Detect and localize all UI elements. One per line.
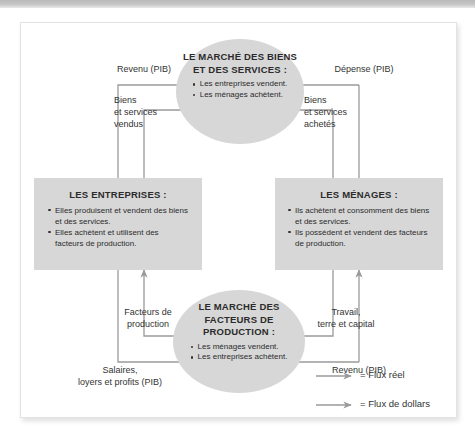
node-market-goods-title: LE MARCHÉ DES BIENS ET DES SERVICES : [176, 51, 304, 76]
bullet: Elles achètent et utilisent des facteurs… [48, 227, 188, 249]
legend-equals-1: = [360, 369, 366, 380]
bullet: Elles produisent et vendent des biens et… [48, 205, 188, 227]
page-top-band [0, 0, 475, 8]
label-biens-services-vendus: Biens et services vendus [114, 94, 184, 130]
legend-equals-2: = [360, 398, 366, 409]
node-firms[interactable]: LES ENTREPRISES : Elles produisent et ve… [34, 178, 202, 270]
node-firms-title: LES ENTREPRISES : [34, 189, 202, 202]
node-market-factors-bullets: Les ménages vendent. Les entreprises ach… [191, 342, 288, 363]
node-market-goods-bullets: Les entreprises vendent. Les ménages ach… [193, 79, 288, 100]
legend-label-flux-dollars: Flux de dollars [368, 398, 430, 409]
diagram-card: LE MARCHÉ DES BIENS ET DES SERVICES : Le… [20, 22, 457, 418]
label-revenu-pib-top: Revenu (PIB) [99, 63, 189, 75]
bullet: Les ménages achètent. [193, 90, 288, 101]
legend-item-flux-reel: = Flux réel [360, 369, 405, 380]
node-firms-bullets: Elles produisent et vendent des biens et… [48, 205, 188, 249]
node-market-goods-services[interactable]: LE MARCHÉ DES BIENS ET DES SERVICES : Le… [176, 39, 304, 144]
legend-item-flux-dollars: = Flux de dollars [360, 398, 430, 409]
legend-label-flux-reel: Flux réel [368, 369, 404, 380]
label-facteurs-de-production: Facteurs de production [107, 306, 189, 330]
bullet: Ils achètent et consomment des biens et … [288, 205, 430, 227]
bullet: Les ménages vendent. [191, 342, 288, 353]
node-market-factors-production[interactable]: LE MARCHÉ DES FACTEURS DE PRODUCTION : L… [173, 290, 305, 393]
node-households-title: LES MÉNAGES : [275, 189, 443, 202]
bullet: Les entreprises vendent. [193, 79, 288, 90]
node-market-factors-title: LE MARCHÉ DES FACTEURS DE PRODUCTION : [173, 301, 305, 339]
label-biens-services-achetes: Biens et services achetés [304, 94, 376, 130]
bullet: Ils possèdent et vendent des facteurs de… [288, 227, 430, 249]
label-travail-terre-capital: Travail, terre et capital [298, 306, 394, 330]
node-households-bullets: Ils achètent et consomment des biens et … [288, 205, 430, 249]
label-depense-pib-top: Dépense (PIB) [316, 63, 412, 75]
label-salaires-loyers-profits: Salaires, loyers et profits (PIB) [57, 364, 183, 388]
bullet: Les entreprises achètent. [191, 352, 288, 363]
node-households[interactable]: LES MÉNAGES : Ils achètent et consomment… [275, 178, 443, 270]
diagram-stage: LE MARCHÉ DES BIENS ET DES SERVICES : Le… [21, 23, 456, 417]
